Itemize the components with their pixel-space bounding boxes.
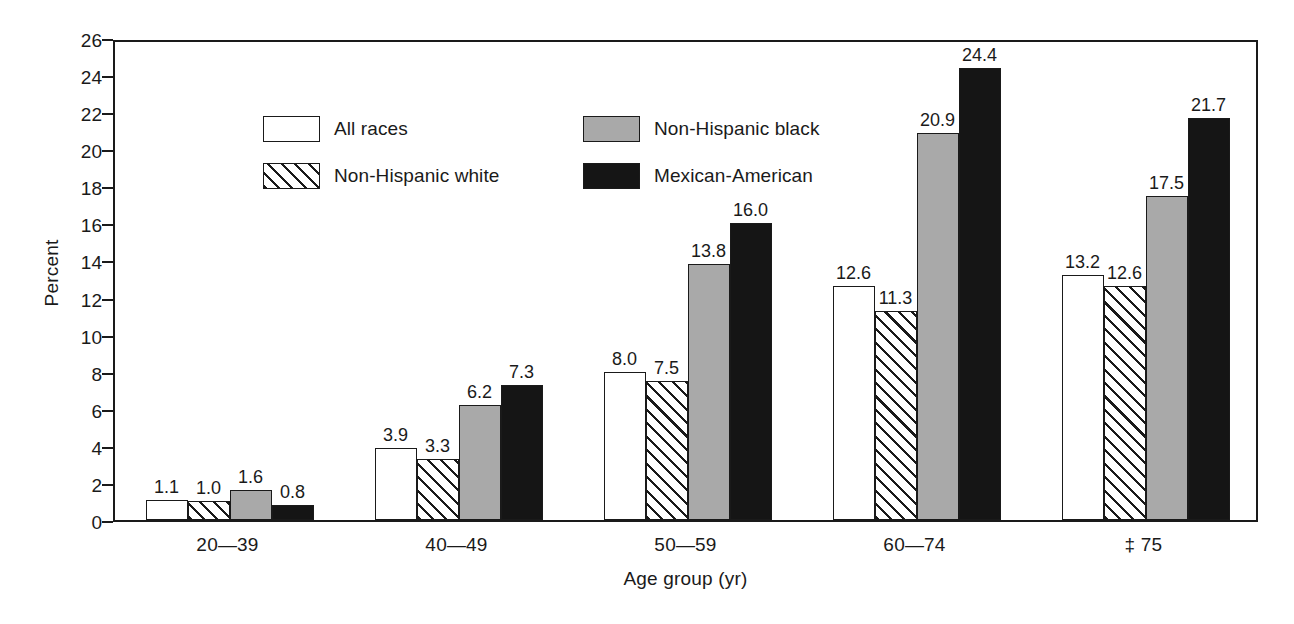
y-axis-tick-label: 24 [56,68,102,87]
bar-mexican-american--75[interactable]: 21.7 [1188,118,1230,520]
x-axis-category-label: 20—39 [196,534,258,556]
y-axis-tick-mark [102,261,113,263]
plot-inner: 1.11.01.60.83.93.36.27.38.07.513.816.012… [115,42,1256,520]
y-axis-tick-mark [102,373,113,375]
y-axis-tick-mark [102,447,113,449]
bar-value-label: 20.9 [920,111,955,129]
bar-group: 3.93.36.27.3 [375,42,543,520]
y-axis-tick-mark [102,521,113,523]
bar-mexican-american-20-39[interactable]: 0.8 [272,505,314,520]
y-axis-tick-label: 4 [56,438,102,457]
bar-non-hispanic-black-60-74[interactable]: 20.9 [917,133,959,520]
bar-value-label: 1.0 [196,479,221,497]
bar-all-races-60-74[interactable]: 12.6 [833,286,875,520]
bar-mexican-american-40-49[interactable]: 7.3 [501,385,543,520]
bar-mexican-american-50-59[interactable]: 16.0 [730,223,772,520]
bar-non-hispanic-black-40-49[interactable]: 6.2 [459,405,501,520]
bar-value-label: 21.7 [1191,96,1226,114]
bar-non-hispanic-black--75[interactable]: 17.5 [1146,196,1188,520]
bar-value-label: 7.5 [654,359,679,377]
y-axis-tick-mark [102,410,113,412]
y-axis-tick-label: 0 [56,513,102,532]
plot-area: 1.11.01.60.83.93.36.27.38.07.513.816.012… [113,40,1258,522]
legend-swatch-hatched [263,163,320,189]
legend-label: Non-Hispanic black [654,118,819,140]
y-axis-ticks: 02468101214161820222426 [0,0,113,624]
x-axis-category-label: ‡ 75 [1125,534,1163,556]
bar-group: 8.07.513.816.0 [604,42,772,520]
bar-value-label: 6.2 [467,383,492,401]
y-axis-tick-label: 22 [56,105,102,124]
y-axis-tick-label: 16 [56,216,102,235]
bar-value-label: 7.3 [509,363,534,381]
legend-label: Mexican-American [654,165,813,187]
y-axis-tick-mark [102,224,113,226]
y-axis-tick-label: 10 [56,327,102,346]
legend-label: All races [334,118,408,140]
x-axis-category-label: 40—49 [425,534,487,556]
bar-non-hispanic-black-20-39[interactable]: 1.6 [230,490,272,520]
chart-figure: Percent 02468101214161820222426 1.11.01.… [0,0,1294,624]
legend-swatch-white [263,116,320,142]
bar-value-label: 1.6 [238,468,263,486]
bar-value-label: 8.0 [612,350,637,368]
bar-value-label: 13.2 [1065,253,1100,271]
y-axis-tick-label: 2 [56,475,102,494]
bar-value-label: 17.5 [1149,174,1184,192]
legend-label: Non-Hispanic white [334,165,499,187]
bar-all-races--75[interactable]: 13.2 [1062,275,1104,520]
legend-item[interactable]: Non-Hispanic black [583,116,819,142]
bar-value-label: 12.6 [1107,264,1142,282]
bar-non-hispanic-white-20-39[interactable]: 1.0 [188,501,230,520]
y-axis-tick-mark [102,187,113,189]
legend-swatch-black [583,163,640,189]
bar-value-label: 16.0 [733,201,768,219]
y-axis-tick-label: 20 [56,142,102,161]
y-axis-tick-label: 8 [56,364,102,383]
y-axis-tick-mark [102,113,113,115]
y-axis-tick-mark [102,484,113,486]
y-axis-tick-mark [102,39,113,41]
x-axis-category-label: 60—74 [883,534,945,556]
legend-item[interactable]: Non-Hispanic white [263,163,499,189]
y-axis-tick-label: 26 [56,31,102,50]
bar-all-races-50-59[interactable]: 8.0 [604,372,646,520]
legend-swatch-gray [583,116,640,142]
bar-group: 1.11.01.60.8 [146,42,314,520]
bar-value-label: 12.6 [836,264,871,282]
y-axis-tick-mark [102,299,113,301]
x-axis-title: Age group (yr) [113,568,1258,590]
y-axis-tick-mark [102,150,113,152]
y-axis-tick-label: 14 [56,253,102,272]
x-axis-category-label: 50—59 [654,534,716,556]
y-axis-tick-mark [102,336,113,338]
bar-mexican-american-60-74[interactable]: 24.4 [959,68,1001,520]
bar-all-races-20-39[interactable]: 1.1 [146,500,188,520]
y-axis-tick-mark [102,76,113,78]
bar-value-label: 13.8 [691,242,726,260]
bar-value-label: 24.4 [962,46,997,64]
bar-group: 12.611.320.924.4 [833,42,1001,520]
bar-non-hispanic-white--75[interactable]: 12.6 [1104,286,1146,520]
bar-value-label: 0.8 [280,483,305,501]
legend-item[interactable]: Mexican-American [583,163,813,189]
bar-group: 13.212.617.521.7 [1062,42,1230,520]
bar-non-hispanic-white-40-49[interactable]: 3.3 [417,459,459,520]
bar-value-label: 1.1 [154,478,179,496]
legend-item[interactable]: All races [263,116,408,142]
y-axis-tick-label: 6 [56,401,102,420]
y-axis-tick-label: 12 [56,290,102,309]
bar-value-label: 11.3 [879,289,913,307]
bar-non-hispanic-white-60-74[interactable]: 11.3 [875,311,917,520]
bar-non-hispanic-black-50-59[interactable]: 13.8 [688,264,730,520]
bar-value-label: 3.9 [383,426,408,444]
bar-non-hispanic-white-50-59[interactable]: 7.5 [646,381,688,520]
y-axis-tick-label: 18 [56,179,102,198]
bar-all-races-40-49[interactable]: 3.9 [375,448,417,520]
bar-value-label: 3.3 [425,437,450,455]
